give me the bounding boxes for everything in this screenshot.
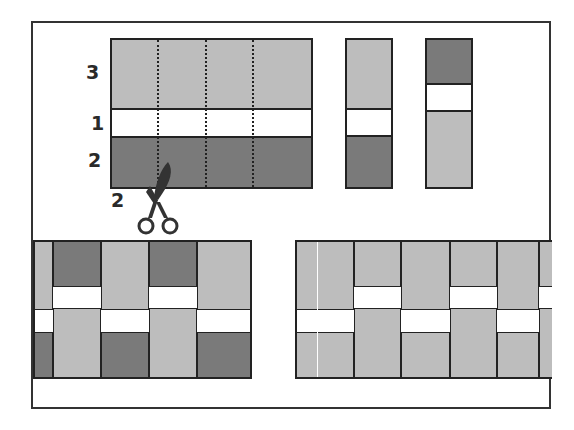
cell bbox=[539, 240, 552, 287]
strip-b bbox=[425, 38, 473, 189]
cell bbox=[197, 240, 252, 310]
cell bbox=[101, 332, 149, 379]
cell bbox=[450, 240, 497, 287]
cell bbox=[497, 332, 539, 379]
strip-b-dark bbox=[427, 40, 471, 85]
strip-a-light bbox=[347, 40, 391, 110]
alternating-strips-panel bbox=[33, 240, 252, 379]
band-label-2: 2 bbox=[88, 151, 101, 170]
highlight-line bbox=[317, 242, 318, 379]
cell bbox=[53, 240, 101, 287]
cell bbox=[539, 308, 552, 379]
band-3 bbox=[112, 40, 311, 110]
strip-b-light bbox=[427, 110, 471, 187]
cell bbox=[149, 308, 197, 379]
band-1 bbox=[112, 110, 311, 136]
cut-line bbox=[205, 40, 207, 187]
cell bbox=[33, 332, 53, 379]
cell bbox=[295, 240, 354, 310]
strip-a-dark bbox=[347, 135, 391, 187]
cell bbox=[354, 240, 401, 287]
cell bbox=[33, 240, 53, 310]
cut-line bbox=[252, 40, 254, 187]
strip-a bbox=[345, 38, 393, 189]
cell bbox=[295, 332, 354, 379]
light-strips-panel bbox=[295, 240, 552, 379]
cell bbox=[53, 308, 101, 379]
cell bbox=[149, 240, 197, 287]
cut-label-2: 2 bbox=[111, 191, 124, 210]
band-label-3: 3 bbox=[86, 63, 99, 82]
cell bbox=[450, 308, 497, 379]
cell bbox=[401, 240, 450, 310]
cell bbox=[497, 240, 539, 310]
cell bbox=[401, 332, 450, 379]
scissors-icon bbox=[130, 160, 190, 238]
cell bbox=[101, 240, 149, 310]
cell bbox=[354, 308, 401, 379]
band-label-1: 1 bbox=[91, 114, 104, 133]
cell bbox=[197, 332, 252, 379]
